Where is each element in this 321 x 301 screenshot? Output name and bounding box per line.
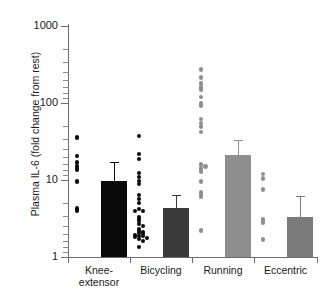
data-point	[203, 164, 208, 169]
x-label-knee-line2: extensor	[68, 276, 130, 288]
data-point	[75, 135, 80, 140]
data-point	[199, 228, 204, 233]
error-bar-stem	[176, 195, 177, 208]
data-point	[137, 171, 141, 175]
x-tick	[317, 258, 318, 263]
error-bar-stem	[300, 196, 301, 217]
x-axis-line	[68, 257, 318, 258]
x-tick	[192, 258, 193, 263]
error-bar-cap	[172, 195, 181, 196]
data-point	[137, 152, 141, 156]
error-bar-cap	[110, 162, 119, 163]
data-point	[199, 195, 204, 200]
data-point	[261, 220, 266, 225]
x-tick	[68, 258, 69, 263]
data-point	[261, 176, 266, 181]
data-point	[141, 224, 145, 228]
data-point	[199, 87, 204, 92]
data-point	[137, 245, 141, 249]
data-point	[261, 237, 266, 242]
data-point	[137, 134, 141, 138]
bar-eccentric	[287, 217, 313, 257]
data-point	[199, 95, 204, 100]
x-label-bicycling: Bicycling	[130, 264, 192, 276]
x-label-knee-extensor: Knee- extensor	[68, 264, 130, 288]
error-bar-cap	[234, 140, 243, 141]
y-tick-label-1: 1	[20, 251, 58, 262]
bar-knee-extensor	[101, 181, 127, 257]
x-tick	[254, 258, 255, 263]
data-point	[261, 187, 266, 192]
error-bar-stem	[114, 162, 115, 181]
data-point	[75, 179, 80, 184]
data-point	[137, 157, 141, 161]
data-point	[199, 169, 204, 174]
data-point	[199, 179, 204, 184]
data-point	[75, 167, 80, 172]
data-point	[141, 209, 145, 213]
x-label-eccentric: Eccentric	[254, 264, 317, 276]
data-point	[75, 154, 80, 159]
data-point	[199, 75, 204, 80]
data-point	[137, 182, 141, 186]
x-label-running: Running	[192, 264, 254, 276]
error-bar-cap	[296, 196, 305, 197]
x-label-knee-line1: Knee-	[68, 264, 130, 276]
data-point	[199, 67, 204, 72]
data-point	[75, 208, 80, 213]
x-tick	[130, 258, 131, 263]
data-point	[199, 124, 204, 129]
data-point	[145, 236, 149, 240]
error-bar-stem	[238, 140, 239, 155]
y-axis-title: Plasma IL-6 (fold change from rest)	[29, 29, 41, 239]
il6-fold-change-chart: 1000 100 10 1 Plasma IL-6 (fold change f…	[0, 0, 321, 301]
data-point	[199, 130, 204, 135]
bar-running	[225, 155, 251, 257]
data-point	[199, 103, 204, 108]
data-point	[141, 239, 145, 243]
data-point	[133, 209, 137, 213]
data-point	[137, 201, 141, 205]
bar-bicycling	[163, 208, 189, 257]
plot-area	[68, 24, 318, 257]
